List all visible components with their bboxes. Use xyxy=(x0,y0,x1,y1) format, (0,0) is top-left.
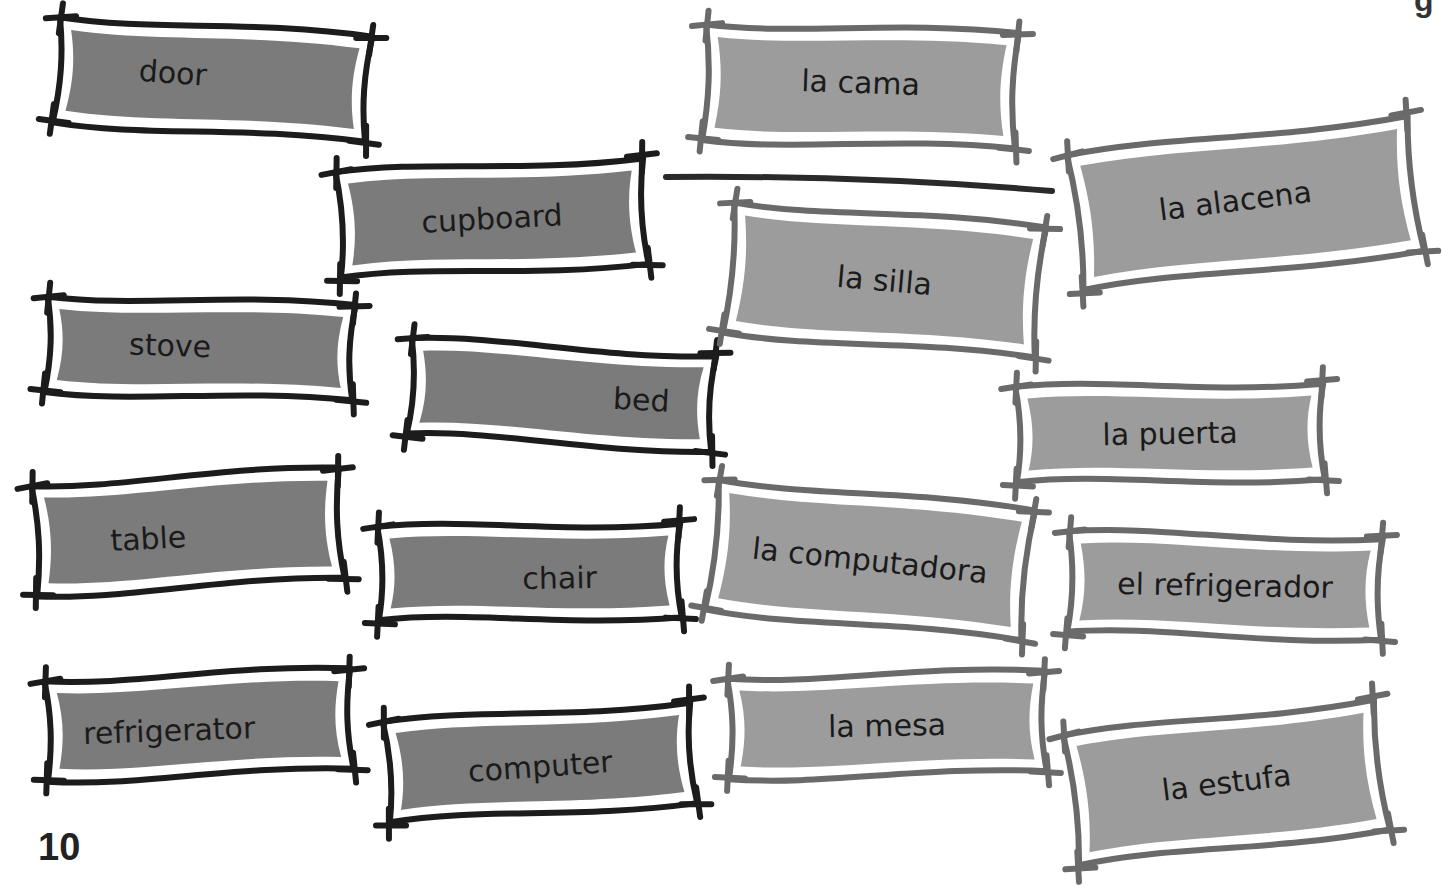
card-frame: la puerta xyxy=(999,365,1341,501)
word-card-el-refrigerador[interactable]: el refrigerador xyxy=(1052,518,1398,653)
card-frame: la mesa xyxy=(711,657,1063,793)
word-card-bed[interactable]: bed xyxy=(393,330,730,460)
word-card-cupboard[interactable]: cupboard xyxy=(322,148,662,288)
card-label: computer xyxy=(366,687,715,845)
card-label: la estufa xyxy=(1045,680,1408,886)
card-frame: computer xyxy=(366,683,715,841)
card-frame: la computadora xyxy=(688,462,1053,658)
card-frame: la cama xyxy=(686,8,1036,165)
card-label: door xyxy=(0,0,350,152)
word-card-la-estufa[interactable]: la estufa xyxy=(1054,700,1399,865)
word-card-la-cama[interactable]: la cama xyxy=(688,14,1033,159)
word-card-chair[interactable]: chair xyxy=(362,508,697,636)
card-frame: door xyxy=(36,0,390,159)
word-card-la-silla[interactable]: la silla xyxy=(712,200,1057,360)
word-card-la-puerta[interactable]: la puerta xyxy=(1000,368,1340,498)
card-frame: la alacena xyxy=(1049,96,1442,310)
card-frame: stove xyxy=(28,280,372,417)
word-card-la-computadora[interactable]: la computadora xyxy=(695,480,1045,640)
card-frame: el refrigerador xyxy=(1051,515,1399,656)
card-label: cupboard xyxy=(319,139,666,297)
card-label: la cama xyxy=(686,4,1036,161)
word-card-refrigerator[interactable]: refrigerator xyxy=(30,660,368,790)
word-card-stove[interactable]: stove xyxy=(30,286,370,411)
card-frame: chair xyxy=(361,505,698,639)
card-label: chair xyxy=(391,511,728,645)
card-frame: la silla xyxy=(706,185,1064,374)
card-label: stove xyxy=(0,277,342,414)
page-header-fragment: g xyxy=(1414,0,1434,19)
card-label: table xyxy=(0,459,322,617)
card-frame: bed xyxy=(390,321,733,468)
word-card-door[interactable]: door xyxy=(40,12,385,147)
card-label: la computadora xyxy=(688,462,1053,658)
card-label: la silla xyxy=(706,185,1064,374)
word-card-table[interactable]: table xyxy=(18,462,358,602)
card-label: refrigerator xyxy=(0,659,340,801)
word-card-computer[interactable]: computer xyxy=(370,695,710,830)
card-frame: refrigerator xyxy=(28,654,370,796)
page-number: 10 xyxy=(38,826,80,869)
card-label: el refrigerador xyxy=(1051,515,1399,656)
card-frame: table xyxy=(15,453,362,611)
card-label: la mesa xyxy=(711,657,1063,793)
card-label: la puerta xyxy=(999,365,1341,501)
word-card-la-mesa[interactable]: la mesa xyxy=(712,660,1062,790)
word-card-la-alacena[interactable]: la alacena xyxy=(1058,118,1433,288)
card-label: la alacena xyxy=(1039,93,1432,307)
card-frame: la estufa xyxy=(1045,680,1408,886)
card-frame: cupboard xyxy=(319,139,666,297)
